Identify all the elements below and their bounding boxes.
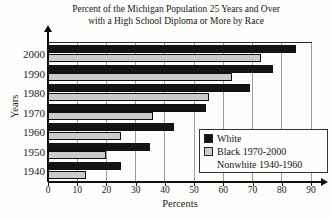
bar-1970-series0 bbox=[48, 104, 206, 112]
y-axis-category-label: 1990 bbox=[0, 68, 45, 80]
y-axis-arrow-icon bbox=[44, 25, 52, 32]
black-series-swatch-icon bbox=[204, 147, 213, 156]
bar-1960-series1 bbox=[48, 132, 121, 140]
y-axis-category-label: 1940 bbox=[0, 165, 45, 177]
y-axis-category-label: 1970 bbox=[0, 107, 45, 119]
x-axis-tick-label: 60 bbox=[212, 185, 234, 195]
white-series-swatch-icon bbox=[204, 134, 213, 143]
x-axis-tick-label: 50 bbox=[183, 185, 205, 195]
x-axis-tick-label: 30 bbox=[125, 185, 147, 195]
x-axis-tick-label: 40 bbox=[154, 185, 176, 195]
bar-1970-series1 bbox=[48, 112, 153, 120]
legend-label: White bbox=[217, 133, 241, 144]
legend-entry-nonwhite: Nonwhite 1940-1960 bbox=[204, 158, 323, 171]
bar-1990-series0 bbox=[48, 65, 273, 73]
y-axis bbox=[47, 31, 49, 182]
y-axis-title: Years bbox=[9, 84, 20, 130]
bar-1980-series0 bbox=[48, 84, 250, 92]
legend: White Black 1970-2000 Nonwhite 1940-1960 bbox=[199, 129, 328, 173]
x-axis-tick-label: 90 bbox=[300, 185, 322, 195]
bar-1940-series0 bbox=[48, 162, 121, 170]
legend-entry-white: White bbox=[204, 132, 323, 145]
bar-1980-series1 bbox=[48, 93, 209, 101]
legend-entry-black: Black 1970-2000 bbox=[204, 145, 323, 158]
legend-label: Black 1970-2000 bbox=[217, 146, 286, 157]
y-axis-category-label: 1950 bbox=[0, 146, 45, 158]
x-axis-tick-label: 0 bbox=[37, 185, 59, 195]
chart-title: Percent of the Michigan Population 25 Ye… bbox=[28, 4, 324, 27]
bar-2000-series0 bbox=[48, 45, 296, 53]
bar-chart: Percent of the Michigan Population 25 Ye… bbox=[0, 0, 332, 219]
x-axis-tick-label: 70 bbox=[242, 185, 264, 195]
bar-1940-series1 bbox=[48, 171, 86, 179]
chart-title-line2: with a High School Diploma or More by Ra… bbox=[28, 16, 324, 28]
legend-label: Nonwhite 1940-1960 bbox=[217, 159, 302, 170]
y-axis-category-label: 1980 bbox=[0, 87, 45, 99]
x-axis-arrow-icon bbox=[321, 178, 328, 186]
bar-1990-series1 bbox=[48, 73, 232, 81]
bar-1960-series0 bbox=[48, 123, 174, 131]
y-axis-category-label: 1960 bbox=[0, 126, 45, 138]
chart-title-line1: Percent of the Michigan Population 25 Ye… bbox=[28, 4, 324, 16]
bar-2000-series1 bbox=[48, 54, 261, 62]
bar-1950-series1 bbox=[48, 151, 106, 159]
y-axis-category-label: 2000 bbox=[0, 48, 45, 60]
x-axis-tick-label: 20 bbox=[95, 185, 117, 195]
bar-1950-series0 bbox=[48, 143, 150, 151]
x-axis-tick-label: 10 bbox=[66, 185, 88, 195]
x-axis-title: Percents bbox=[145, 198, 215, 209]
x-axis-tick-label: 80 bbox=[271, 185, 293, 195]
